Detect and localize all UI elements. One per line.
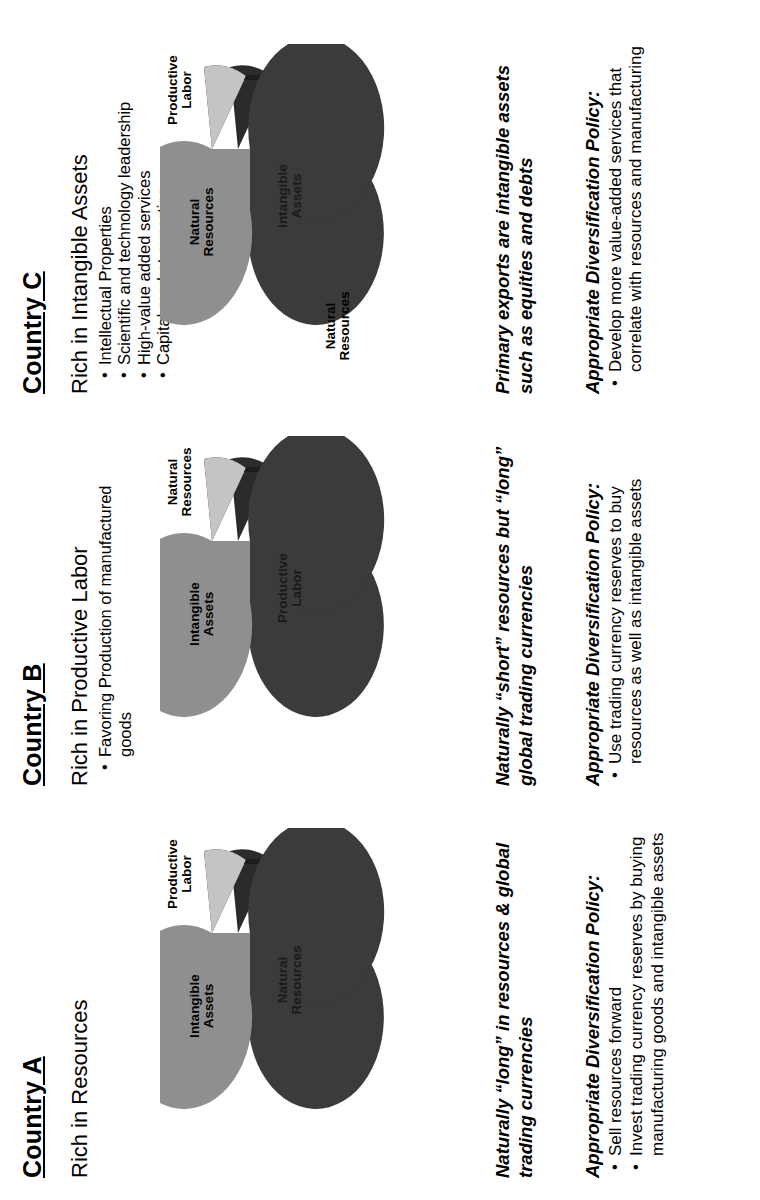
country-c-label-upper: Natural Resources — [188, 176, 217, 268]
country-a-policy-title: Appropriate Diversification Policy: — [582, 816, 604, 1178]
country-b-policy: Appropriate Diversification Policy: Use … — [582, 424, 647, 786]
slide-rotation-wrapper: Country A Rich in Resources — [0, 0, 760, 1200]
country-a-policy-list: Sell resources forward Invest trading cu… — [606, 816, 668, 1170]
country-a-summary: Naturally “long” in resources & global t… — [492, 828, 537, 1178]
country-column-b: Country B Rich in Productive Labor Favor… — [0, 408, 760, 800]
country-b-summary: Naturally “short” resources but “long” g… — [492, 436, 537, 786]
country-a-rich-line: Rich in Resources — [67, 800, 93, 1178]
country-c-label-extra: Natural Resources — [324, 280, 353, 372]
country-a-pie-area: Natural Resources Intangible Assets Prod… — [150, 800, 480, 1192]
country-c-policy-title: Appropriate Diversification Policy: — [582, 32, 604, 394]
policy-bullet: Sell resources forward — [606, 816, 626, 1170]
country-a-label-upper: Intangible Assets — [188, 960, 217, 1052]
country-c-bullet: Scientific and technology leadership — [115, 65, 133, 378]
country-b-bullet: Favoring Production of manufactured good… — [96, 457, 136, 770]
country-b-pie-area: Productive Labor Intangible Assets Natur… — [150, 408, 480, 800]
country-a-title: Country A — [18, 800, 47, 1178]
country-b-policy-title: Appropriate Diversification Policy: — [582, 424, 604, 786]
country-b-label-top: Natural Resources — [166, 436, 195, 528]
country-c-policy: Appropriate Diversification Policy: Deve… — [582, 32, 647, 394]
country-b-bullet-list: Favoring Production of manufactured good… — [96, 408, 136, 770]
country-b-rich-line: Rich in Productive Labor — [67, 408, 93, 786]
country-b-title: Country B — [18, 408, 47, 786]
country-c-title: Country C — [18, 8, 47, 394]
country-b-pie-chart: Productive Labor Intangible Assets Natur… — [160, 436, 460, 756]
country-c-label-main: Intangible Assets — [276, 146, 305, 246]
country-column-c: Country C Rich in Intangible Assets Inte… — [0, 8, 760, 408]
country-c-rich-line: Rich in Intangible Assets — [67, 8, 93, 394]
country-column-a: Country A Rich in Resources — [0, 800, 760, 1192]
country-c-pie-area: Intangible Assets Natural Resources Prod… — [150, 8, 480, 408]
country-b-label-main: Productive Labor — [276, 538, 305, 638]
country-c-bullet: Intellectual Properties — [96, 65, 114, 378]
policy-bullet: Use trading currency reserves to buy res… — [606, 424, 647, 778]
country-b-policy-list: Use trading currency reserves to buy res… — [606, 424, 647, 778]
country-a-policy: Appropriate Diversification Policy: Sell… — [582, 816, 668, 1178]
country-c-summary: Primary exports are intangible assets su… — [492, 44, 537, 394]
country-c-policy-list: Develop more value-added services that c… — [606, 32, 647, 386]
policy-bullet: Develop more value-added services that c… — [606, 32, 647, 386]
country-c-pie-chart: Intangible Assets Natural Resources Prod… — [160, 44, 460, 364]
country-b-label-upper: Intangible Assets — [188, 568, 217, 660]
country-a-label-top: Productive Labor — [166, 828, 195, 920]
country-a-pie-chart: Natural Resources Intangible Assets Prod… — [160, 828, 460, 1148]
country-a-label-main: Natural Resources — [276, 930, 305, 1030]
country-c-label-top: Productive Labor — [166, 44, 195, 136]
slide-canvas: Country A Rich in Resources — [0, 0, 760, 1200]
policy-bullet: Invest trading currency reserves by buyi… — [627, 816, 668, 1170]
